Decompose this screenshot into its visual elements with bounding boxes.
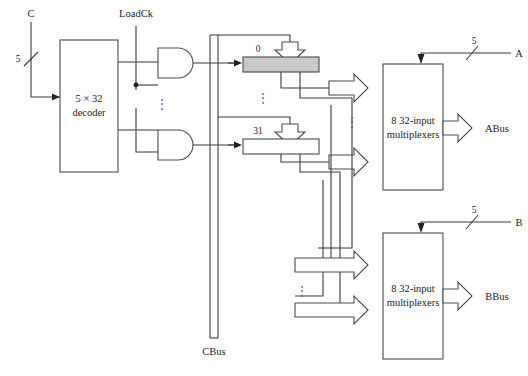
c-bus-width-label: 5 bbox=[16, 54, 21, 64]
mux-a-block: 8 32-input multiplexers ABus bbox=[383, 64, 509, 190]
register-0-label: 0 bbox=[256, 44, 261, 54]
and-gate-31-shape bbox=[158, 130, 193, 160]
bmux-inputs-ellipsis: ⋮ bbox=[296, 284, 308, 298]
mux-a-label-line1: 8 32-input bbox=[391, 115, 435, 126]
b-select-arrowhead bbox=[418, 223, 425, 233]
decoder-label-line2: decoder bbox=[72, 107, 106, 118]
gates-ellipsis: ⋮ bbox=[156, 97, 168, 111]
amux-inputs-ellipsis: ⋮ bbox=[346, 115, 358, 129]
loadck-junction-dot bbox=[134, 83, 139, 88]
and-gate-0-shape bbox=[158, 48, 193, 78]
bmux-feed-rails bbox=[295, 98, 352, 310]
abus-output-label: ABus bbox=[485, 123, 509, 134]
a-select-arrowhead bbox=[418, 54, 425, 64]
c-input-arrowhead bbox=[52, 94, 60, 101]
bbus-output-label: BBus bbox=[485, 291, 508, 302]
register-31: 31 bbox=[228, 126, 319, 154]
c-input-label: C bbox=[27, 8, 34, 19]
registers-ellipsis: ⋮ bbox=[257, 91, 269, 105]
bmux-input-arrow-bottom bbox=[295, 296, 368, 324]
a-select-input-group: 5 A bbox=[418, 36, 524, 64]
mux-feed-outer-rail-b bbox=[295, 180, 323, 296]
register-0-box bbox=[243, 57, 319, 72]
mux-b-label-line2: multiplexers bbox=[387, 297, 440, 308]
decoder-label-line1: 5 × 32 bbox=[76, 93, 103, 104]
mux-a-label-line2: multiplexers bbox=[387, 129, 440, 140]
abus-output-arrow bbox=[443, 114, 472, 142]
b-select-input-group: 5 B bbox=[418, 205, 523, 233]
b-select-wire bbox=[421, 222, 511, 231]
c-input-group: C 5 bbox=[16, 8, 60, 101]
diagram-svg: C 5 5 × 32 decoder LoadCk ⋮ CBus bbox=[0, 0, 528, 376]
mux-b-block: 8 32-input multiplexers BBus bbox=[383, 233, 509, 359]
mux-feed-outer-rail-a bbox=[295, 105, 331, 265]
decoder-block: 5 × 32 decoder bbox=[60, 40, 118, 172]
reg31-bmux-rail bbox=[310, 172, 340, 310]
cbus-label: CBus bbox=[202, 346, 225, 357]
mux-b-box bbox=[383, 233, 443, 359]
loadck-label: LoadCk bbox=[119, 8, 154, 19]
reg31-to-amux-path bbox=[281, 154, 329, 162]
circuit-diagram-canvas: C 5 5 × 32 decoder LoadCk ⋮ CBus bbox=[0, 0, 528, 376]
a-select-label: A bbox=[515, 48, 523, 59]
b-select-label: B bbox=[515, 217, 522, 228]
bbus-output-arrow bbox=[443, 282, 472, 310]
c-input-wire bbox=[31, 22, 60, 97]
decoder-box bbox=[60, 40, 118, 172]
cbus-feed0-path bbox=[210, 35, 290, 42]
register-31-clk-arrowhead bbox=[234, 142, 242, 149]
register-31-box bbox=[243, 139, 319, 154]
reg0-to-amux-path bbox=[281, 72, 329, 88]
register-0-clk-arrowhead bbox=[234, 60, 242, 67]
a-select-wire bbox=[421, 53, 511, 62]
a-bus-width-label: 5 bbox=[472, 36, 477, 46]
mux-a-box bbox=[383, 64, 443, 190]
mux-b-label-line1: 8 32-input bbox=[391, 283, 435, 294]
cbus-feed31-path bbox=[218, 117, 290, 124]
cbus-group: CBus bbox=[202, 35, 225, 357]
register-0: 0 bbox=[228, 44, 319, 72]
register-31-label: 31 bbox=[253, 126, 263, 136]
b-bus-width-label: 5 bbox=[472, 205, 477, 215]
